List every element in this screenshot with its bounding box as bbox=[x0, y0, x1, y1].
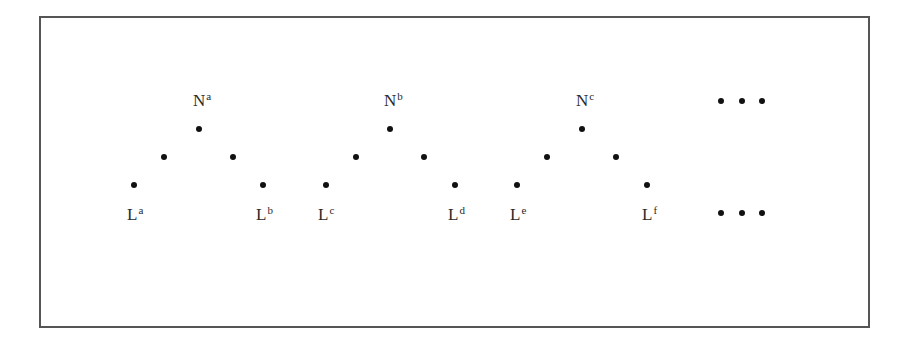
root-dot bbox=[196, 126, 202, 132]
root-label-na: Na bbox=[193, 92, 211, 109]
diagram-frame bbox=[39, 16, 870, 328]
ellipsis-dot bbox=[739, 98, 745, 104]
leaf-label-lf: Lf bbox=[642, 206, 657, 223]
left-leaf-dot bbox=[131, 182, 137, 188]
leaf-label-ld: Ld bbox=[448, 206, 465, 223]
root-dot bbox=[387, 126, 393, 132]
root-label-nc: Nc bbox=[576, 92, 594, 109]
ellipsis-dot bbox=[718, 98, 724, 104]
left-branch-dot bbox=[544, 154, 550, 160]
ellipsis-dot bbox=[759, 210, 765, 216]
leaf-label-lc: Lc bbox=[318, 206, 334, 223]
right-leaf-dot bbox=[260, 182, 266, 188]
right-branch-dot bbox=[613, 154, 619, 160]
leaf-label-lb: Lb bbox=[256, 206, 273, 223]
left-leaf-dot bbox=[514, 182, 520, 188]
left-branch-dot bbox=[353, 154, 359, 160]
leaf-label-le: Le bbox=[510, 206, 526, 223]
right-leaf-dot bbox=[644, 182, 650, 188]
left-leaf-dot bbox=[323, 182, 329, 188]
right-branch-dot bbox=[421, 154, 427, 160]
right-branch-dot bbox=[230, 154, 236, 160]
root-dot bbox=[579, 126, 585, 132]
ellipsis-dot bbox=[739, 210, 745, 216]
root-label-nb: Nb bbox=[384, 92, 403, 109]
leaf-label-la: La bbox=[127, 206, 143, 223]
left-branch-dot bbox=[161, 154, 167, 160]
ellipsis-dot bbox=[718, 210, 724, 216]
ellipsis-dot bbox=[759, 98, 765, 104]
right-leaf-dot bbox=[452, 182, 458, 188]
